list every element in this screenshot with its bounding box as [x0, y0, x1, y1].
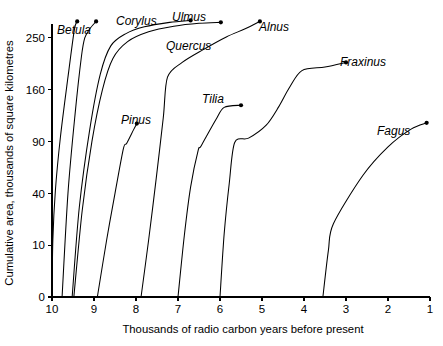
endpoint-dot-quercus [219, 20, 223, 24]
series-label-fraxinus: Fraxinus [340, 55, 386, 69]
series-label-corylus: Corylus [116, 14, 157, 28]
series-label-quercus: Quercus [166, 39, 211, 53]
series-label-pinus: Pinus [121, 113, 151, 127]
x-tick-label: 7 [175, 303, 181, 315]
series-line-pinus [97, 124, 136, 297]
endpoint-dot-tilia [239, 103, 243, 107]
y-tick-label: 10 [32, 239, 45, 251]
series-line-alnus [141, 21, 260, 297]
x-tick-label: 10 [46, 303, 59, 315]
series-line-corylus [62, 21, 96, 297]
x-axis-title: Thousands of radio carbon years before p… [122, 323, 364, 335]
endpoint-dot-corylus [94, 19, 98, 23]
series-line-quercus [74, 22, 221, 297]
y-tick-label: 160 [26, 84, 45, 96]
series-label-fagus: Fagus [377, 124, 410, 138]
x-tick-label: 8 [133, 303, 139, 315]
cumulative-area-line-chart: 010409016025010987654321 BetulaCorylusUl… [0, 0, 443, 346]
y-axis-title: Cumulative area, thousands of square kil… [3, 40, 15, 286]
x-tick-label: 1 [427, 303, 433, 315]
x-tick-label: 6 [217, 303, 223, 315]
x-tick-label: 4 [301, 303, 308, 315]
x-tick-label: 3 [343, 303, 349, 315]
x-tick-label: 2 [385, 303, 391, 315]
y-tick-label: 0 [39, 291, 45, 303]
series-line-fagus [323, 123, 427, 297]
series-label-tilia: Tilia [202, 92, 224, 106]
x-tick-label: 5 [259, 303, 265, 315]
series-label-ulmus: Ulmus [172, 10, 206, 24]
series-label-alnus: Alnus [258, 20, 289, 34]
chart-container: 010409016025010987654321 BetulaCorylusUl… [0, 0, 443, 346]
axis-titles-group: Thousands of radio carbon years before p… [3, 40, 364, 335]
x-tick-label: 9 [91, 303, 97, 315]
series-line-ulmus [72, 20, 190, 297]
series-line-tilia [178, 105, 241, 297]
y-tick-label: 90 [32, 136, 45, 148]
endpoint-dot-fagus [425, 121, 429, 125]
series-labels-group: BetulaCorylusUlmusQuercusPinusAlnusTilia… [57, 10, 410, 138]
y-tick-label: 40 [32, 188, 45, 200]
y-tick-label: 250 [26, 32, 45, 44]
series-label-betula: Betula [57, 23, 91, 37]
